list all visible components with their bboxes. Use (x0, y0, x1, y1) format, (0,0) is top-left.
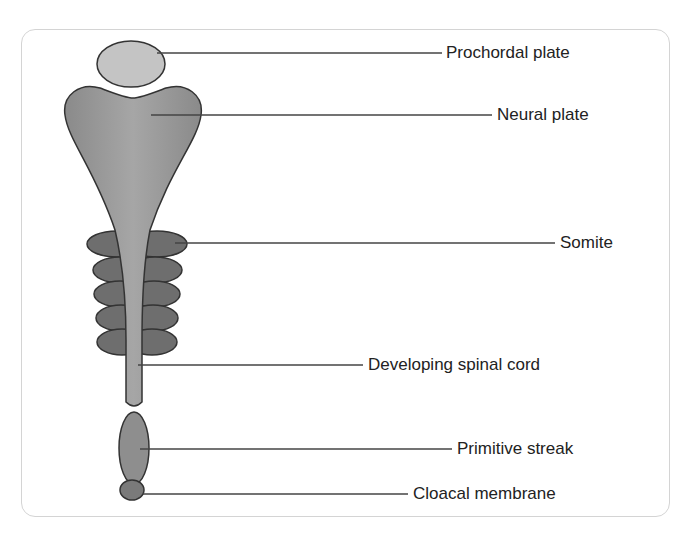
label-prochordal-plate: Prochordal plate (446, 44, 570, 61)
label-somite: Somite (560, 234, 613, 251)
label-cloacal-membrane: Cloacal membrane (413, 485, 556, 502)
prochordal-plate-shape (97, 41, 165, 87)
label-neural-plate: Neural plate (497, 106, 589, 123)
label-developing-spinal-cord: Developing spinal cord (368, 356, 540, 373)
embryo-diagram (0, 0, 692, 533)
label-primitive-streak: Primitive streak (457, 440, 573, 457)
cloacal-membrane-shape (120, 480, 144, 500)
primitive-streak-shape (119, 412, 149, 484)
